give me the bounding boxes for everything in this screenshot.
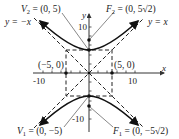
label-f2: F2 = (0, 5√2) xyxy=(105,4,156,15)
point-right-dot xyxy=(110,71,114,75)
label-point-left: (−5, 0) xyxy=(38,60,64,71)
y-tick-neg10: -10 xyxy=(72,114,84,124)
label-v1: V1 = (0, −5) xyxy=(17,126,62,137)
leader-lines xyxy=(62,12,114,127)
label-asymptote-pos: y = x xyxy=(147,17,168,27)
x-tick-10: 10 xyxy=(128,76,138,86)
label-asymptote-neg: y = −x xyxy=(4,17,32,27)
x-tick-neg10: -10 xyxy=(33,76,45,86)
origin-dot xyxy=(88,72,91,75)
label-point-right: (5, 0) xyxy=(114,60,135,71)
y-axis-label: y xyxy=(81,10,86,20)
hyperbola-diagram: V2 = (0, 5) F2 = (0, 5√2) y = −x y = x (… xyxy=(0,0,179,139)
x-axis-label: x xyxy=(161,63,166,73)
point-left-dot xyxy=(64,71,68,75)
label-f1: F1 = (0, −5√2) xyxy=(112,126,168,137)
y-tick-10: 10 xyxy=(78,22,88,32)
x-axis xyxy=(33,71,164,74)
label-v2: V2 = (0, 5) xyxy=(21,4,61,15)
